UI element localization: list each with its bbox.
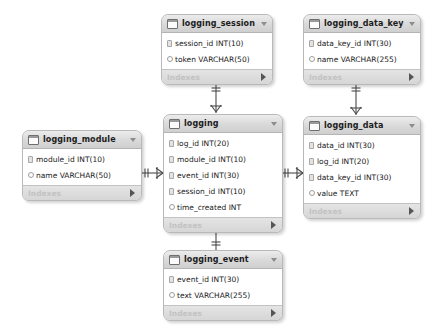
primary-key-icon xyxy=(309,142,317,149)
table-logging-session[interactable]: logging_session session_id INT(10) token… xyxy=(161,14,273,85)
table-title: logging_event xyxy=(184,255,271,264)
field-row[interactable]: session_id INT(10) xyxy=(162,35,272,51)
table-fields: data_id INT(30) log_id INT(20) data_key_… xyxy=(304,135,420,203)
field-label: time_created INT xyxy=(177,203,241,212)
field-label: module_id INT(10) xyxy=(177,155,246,164)
indexes-section[interactable]: Indexes xyxy=(23,185,141,200)
table-fields: log_id INT(20) module_id INT(10) event_i… xyxy=(164,133,282,217)
field-row[interactable]: text VARCHAR(255) xyxy=(164,287,282,303)
field-label: data_key_id INT(30) xyxy=(317,39,392,48)
chevron-down-icon[interactable] xyxy=(271,122,277,126)
table-icon xyxy=(169,119,180,129)
primary-key-icon xyxy=(167,40,175,47)
table-header[interactable]: logging_session xyxy=(162,15,272,33)
indexes-label: Indexes xyxy=(28,189,130,198)
column-icon xyxy=(309,56,317,62)
table-fields: session_id INT(10) token VARCHAR(50) xyxy=(162,33,272,69)
table-logging-event[interactable]: logging_event event_id INT(30) text VARC… xyxy=(163,250,283,321)
field-row[interactable]: module_id INT(10) xyxy=(164,151,282,167)
table-logging[interactable]: logging log_id INT(20) module_id INT(10)… xyxy=(163,114,283,233)
field-row[interactable]: event_id INT(30) xyxy=(164,271,282,287)
table-header[interactable]: logging_event xyxy=(164,251,282,269)
indexes-section[interactable]: Indexes xyxy=(164,305,282,320)
relationship-datakey-data[interactable] xyxy=(343,82,369,120)
field-row[interactable]: token VARCHAR(50) xyxy=(162,51,272,67)
primary-key-icon xyxy=(309,40,317,47)
foreign-key-icon xyxy=(309,158,317,165)
chevron-right-icon[interactable] xyxy=(409,207,414,215)
field-label: session_id INT(10) xyxy=(175,39,244,48)
field-row[interactable]: time_created INT xyxy=(164,199,282,215)
field-row[interactable]: session_id INT(10) xyxy=(164,183,282,199)
table-icon xyxy=(309,121,320,131)
column-icon xyxy=(309,190,317,196)
table-header[interactable]: logging xyxy=(164,115,282,133)
chevron-right-icon[interactable] xyxy=(271,309,276,317)
field-row[interactable]: data_id INT(30) xyxy=(304,137,420,153)
table-logging-module[interactable]: logging_module module_id INT(10) name VA… xyxy=(22,130,142,201)
field-row[interactable]: name VARCHAR(255) xyxy=(304,51,420,67)
table-icon xyxy=(309,19,320,29)
column-icon xyxy=(169,292,177,298)
chevron-right-icon[interactable] xyxy=(130,189,135,197)
er-diagram-canvas: logging_session session_id INT(10) token… xyxy=(0,0,433,336)
indexes-label: Indexes xyxy=(169,309,271,318)
field-label: text VARCHAR(255) xyxy=(177,291,250,300)
indexes-label: Indexes xyxy=(169,221,271,230)
foreign-key-icon xyxy=(169,156,177,163)
field-row[interactable]: value TEXT xyxy=(304,185,420,201)
table-icon xyxy=(169,255,180,265)
table-logging-data[interactable]: logging_data data_id INT(30) log_id INT(… xyxy=(303,116,421,219)
chevron-down-icon[interactable] xyxy=(409,124,415,128)
field-label: session_id INT(10) xyxy=(177,187,246,196)
field-label: module_id INT(10) xyxy=(36,155,105,164)
chevron-right-icon[interactable] xyxy=(271,221,276,229)
foreign-key-icon xyxy=(309,174,317,181)
table-title: logging_session xyxy=(182,19,261,28)
field-label: value TEXT xyxy=(317,189,359,198)
field-label: name VARCHAR(255) xyxy=(317,55,397,64)
table-title: logging_data_key xyxy=(324,19,409,28)
field-row[interactable]: log_id INT(20) xyxy=(304,153,420,169)
field-row[interactable]: log_id INT(20) xyxy=(164,135,282,151)
field-label: data_id INT(30) xyxy=(317,141,375,150)
relationship-session-logging[interactable] xyxy=(203,82,229,118)
primary-key-icon xyxy=(169,140,177,147)
field-row[interactable]: data_key_id INT(30) xyxy=(304,35,420,51)
chevron-right-icon[interactable] xyxy=(409,73,414,81)
field-label: token VARCHAR(50) xyxy=(175,55,250,64)
indexes-label: Indexes xyxy=(309,73,409,82)
table-header[interactable]: logging_data_key xyxy=(304,15,420,33)
field-row[interactable]: event_id INT(30) xyxy=(164,167,282,183)
table-title: logging_data xyxy=(324,121,409,130)
table-title: logging xyxy=(184,119,271,128)
primary-key-icon xyxy=(28,156,36,163)
field-label: name VARCHAR(50) xyxy=(36,171,111,180)
field-label: log_id INT(20) xyxy=(177,139,229,148)
chevron-down-icon[interactable] xyxy=(130,138,136,142)
table-logging-data-key[interactable]: logging_data_key data_key_id INT(30) nam… xyxy=(303,14,421,85)
chevron-right-icon[interactable] xyxy=(261,73,266,81)
chevron-down-icon[interactable] xyxy=(409,22,415,26)
indexes-section[interactable]: Indexes xyxy=(164,217,282,232)
field-label: data_key_id INT(30) xyxy=(317,173,392,182)
indexes-section[interactable]: Indexes xyxy=(304,69,420,84)
field-label: event_id INT(30) xyxy=(177,171,239,180)
chevron-down-icon[interactable] xyxy=(271,258,277,262)
field-row[interactable]: data_key_id INT(30) xyxy=(304,169,420,185)
indexes-section[interactable]: Indexes xyxy=(304,203,420,218)
foreign-key-icon xyxy=(169,172,177,179)
column-icon xyxy=(28,172,36,178)
chevron-down-icon[interactable] xyxy=(261,22,267,26)
table-fields: event_id INT(30) text VARCHAR(255) xyxy=(164,269,282,305)
table-icon xyxy=(28,135,39,145)
column-icon xyxy=(167,56,175,62)
table-header[interactable]: logging_data xyxy=(304,117,420,135)
field-row[interactable]: name VARCHAR(50) xyxy=(23,167,141,183)
field-row[interactable]: module_id INT(10) xyxy=(23,151,141,167)
table-header[interactable]: logging_module xyxy=(23,131,141,149)
table-title: logging_module xyxy=(43,135,130,144)
foreign-key-icon xyxy=(169,188,177,195)
field-label: event_id INT(30) xyxy=(177,275,239,284)
indexes-section[interactable]: Indexes xyxy=(162,69,272,84)
